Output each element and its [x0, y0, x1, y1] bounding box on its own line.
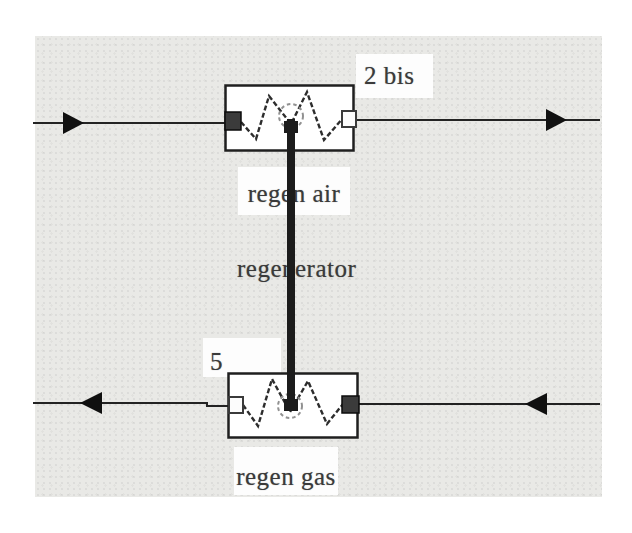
- flow-arrow-left-icon: [525, 393, 547, 415]
- flow-arrow-right-icon: [546, 109, 567, 131]
- stream-bottom-outlet[interactable]: [33, 392, 230, 414]
- inlet-port[interactable]: [342, 396, 359, 413]
- connector-end-top: [284, 121, 298, 133]
- flowsheet-window: 2 bis regen air regenerator 5 regen gas: [0, 0, 632, 533]
- stream-bottom-inlet[interactable]: [357, 393, 600, 415]
- flow-arrow-right-icon: [63, 112, 84, 134]
- flow-arrow-left-icon: [80, 392, 102, 414]
- outlet-port[interactable]: [229, 397, 243, 413]
- flowsheet-diagram: [0, 0, 632, 533]
- outlet-port[interactable]: [342, 111, 356, 127]
- connector-end-bottom: [284, 399, 298, 411]
- inlet-port[interactable]: [225, 112, 241, 130]
- stream-top-inlet[interactable]: [33, 112, 226, 134]
- connector-regenerator[interactable]: [284, 119, 298, 411]
- stream-top-outlet[interactable]: [354, 109, 600, 131]
